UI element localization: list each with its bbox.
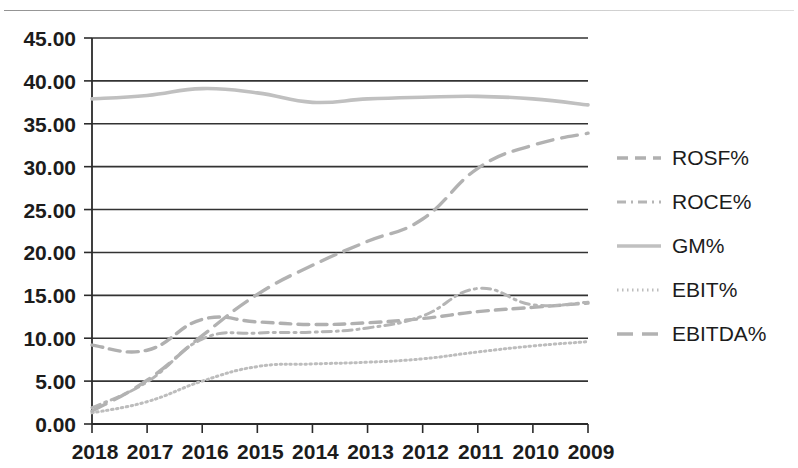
series-line-ebit	[92, 342, 588, 413]
y-axis-tick-label: 35.00	[23, 113, 76, 136]
y-axis-tick-label: 40.00	[23, 70, 76, 93]
x-axis-tick-label: 2011	[458, 440, 504, 463]
x-axis-tick-label: 2014	[292, 440, 339, 463]
series-line-rosf	[92, 303, 588, 352]
y-axis-tick-label: 15.00	[23, 284, 76, 307]
x-axis-tick-label: 2017	[127, 440, 174, 463]
x-axis-tick-label: 2015	[237, 440, 284, 463]
legend-label-ebitda: EBITDA%	[672, 322, 767, 345]
x-axis-tick-label: 2016	[182, 440, 229, 463]
x-axis-tick-labels: 2018201720162015201420132012201120102009	[72, 440, 615, 463]
series-line-ebitda	[92, 133, 588, 411]
line-chart: 0.005.0010.0015.0020.0025.0030.0035.0040…	[0, 0, 798, 468]
y-axis-tick-labels: 0.005.0010.0015.0020.0025.0030.0035.0040…	[23, 27, 76, 436]
y-axis-tick-label: 10.00	[23, 327, 76, 350]
x-axis-tick-label: 2018	[72, 440, 119, 463]
data-series	[92, 89, 588, 413]
y-axis-tick-label: 45.00	[23, 27, 76, 50]
legend-label-gm: GM%	[672, 234, 725, 257]
x-axis-tick-label: 2009	[568, 440, 615, 463]
chart-legend: ROSF%ROCE%GM%EBIT%EBITDA%	[617, 146, 767, 345]
x-axis-tick-label: 2013	[347, 440, 394, 463]
y-axis-tick-label: 0.00	[35, 413, 76, 436]
legend-label-roce: ROCE%	[672, 190, 751, 213]
y-axis-tick-label: 25.00	[23, 199, 76, 222]
x-axis-tick-label: 2010	[513, 440, 560, 463]
legend-label-rosf: ROSF%	[672, 146, 749, 169]
legend-label-ebit: EBIT%	[672, 278, 737, 301]
y-axis-tick-label: 20.00	[23, 241, 76, 264]
series-line-gm	[92, 89, 588, 105]
x-axis-tick-label: 2012	[402, 440, 449, 463]
chart-container: 0.005.0010.0015.0020.0025.0030.0035.0040…	[0, 0, 798, 468]
y-axis-tick-label: 30.00	[23, 156, 76, 179]
y-axis-tick-label: 5.00	[35, 370, 76, 393]
